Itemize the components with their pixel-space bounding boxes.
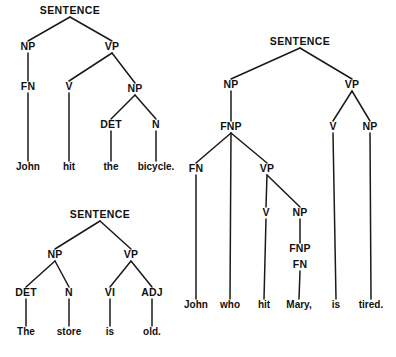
- tree-root-label: SENTENCE: [70, 208, 130, 220]
- tree-edge: [267, 175, 300, 207]
- tree-leaf-label: The: [17, 326, 35, 337]
- tree-node-label: NP: [293, 206, 308, 218]
- tree-edge: [231, 133, 267, 163]
- tree-leaf-label: is: [332, 299, 341, 310]
- tree-edge: [111, 95, 135, 119]
- tree-edge: [26, 261, 55, 287]
- tree-edge: [55, 221, 100, 249]
- tree-edge: [266, 175, 267, 207]
- tree-node-label: NP: [363, 120, 378, 132]
- tree-node-label: VP: [124, 248, 138, 260]
- tree-node-label: NP: [48, 248, 63, 260]
- tree-edge: [112, 53, 135, 83]
- tree-leaf-label: who: [219, 299, 240, 310]
- tree-leaf-label: is: [106, 326, 115, 337]
- tree-node-label: NP: [224, 78, 239, 90]
- tree-edge: [231, 48, 300, 79]
- tree-sentence-john-who-hit-mary-is-tired: SENTENCENPVPFNPVNPFNVPVNPFNPFNJohnwhohit…: [184, 35, 383, 310]
- tree-leaf-label: tired.: [359, 299, 384, 310]
- tree-node-label: FN: [189, 162, 203, 174]
- tree-root-label: SENTENCE: [40, 4, 100, 16]
- tree-node-label: FNP: [289, 242, 311, 254]
- tree-edge: [55, 261, 69, 287]
- tree-edge: [299, 271, 300, 299]
- tree-leaf-label: bicycle.: [138, 161, 175, 172]
- tree-nodes: SENTENCENPVPFNPVNPFNVPVNPFNPFN: [189, 35, 378, 270]
- tree-edges: [26, 221, 152, 326]
- tree-node-label: NP: [21, 40, 36, 52]
- tree-edge: [230, 133, 231, 299]
- syntax-tree-figure: SENTENCENPVPFNVNPDETNJohnhitthebicycle.S…: [0, 0, 396, 357]
- tree-sentence-john-hit-the-bicycle: SENTENCENPVPFNVNPDETNJohnhitthebicycle.: [16, 4, 175, 172]
- tree-edge: [333, 133, 336, 299]
- tree-edge: [370, 133, 371, 299]
- tree-leaves: Thestoreisold.: [17, 326, 161, 337]
- tree-canvas: SENTENCENPVPFNVNPDETNJohnhitthebicycle.S…: [0, 0, 396, 357]
- tree-nodes: SENTENCENPVPDETNVIADJ: [15, 208, 163, 298]
- tree-edge: [70, 17, 112, 41]
- tree-leaf-label: John: [16, 161, 40, 172]
- tree-node-label: NP: [128, 82, 143, 94]
- tree-edge: [196, 133, 231, 163]
- tree-edge: [69, 53, 112, 81]
- tree-node-label: ADJ: [141, 286, 163, 298]
- tree-leaf-label: Mary,: [286, 299, 312, 310]
- tree-edge: [131, 261, 152, 287]
- tree-leaf-label: store: [57, 326, 82, 337]
- tree-node-label: FN: [21, 80, 35, 92]
- tree-edge: [300, 48, 352, 79]
- tree-node-label: VI: [105, 286, 115, 298]
- tree-node-label: N: [65, 286, 73, 298]
- tree-leaf-label: old.: [143, 326, 161, 337]
- tree-root-label: SENTENCE: [270, 35, 330, 47]
- tree-leaves: Johnhitthebicycle.: [16, 161, 175, 172]
- tree-leaf-label: hit: [258, 299, 271, 310]
- tree-edge: [135, 95, 156, 119]
- tree-leaf-label: the: [104, 161, 119, 172]
- tree-node-label: DET: [100, 118, 122, 130]
- tree-node-label: V: [65, 80, 72, 92]
- tree-node-label: VP: [345, 78, 359, 90]
- tree-node-label: V: [262, 206, 269, 218]
- tree-edge: [352, 91, 370, 121]
- tree-edge: [100, 221, 131, 249]
- tree-node-label: FNP: [220, 120, 242, 132]
- tree-node-label: V: [329, 120, 336, 132]
- tree-edge: [110, 261, 131, 287]
- tree-leaf-label: John: [184, 299, 208, 310]
- tree-edge: [28, 17, 70, 41]
- tree-node-label: N: [152, 118, 160, 130]
- tree-leaves: JohnwhohitMary,istired.: [184, 299, 383, 310]
- tree-leaf-label: hit: [63, 161, 76, 172]
- tree-sentence-the-store-is-old: SENTENCENPVPDETNVIADJThestoreisold.: [15, 208, 163, 337]
- tree-node-label: VP: [260, 162, 274, 174]
- tree-edge: [333, 91, 352, 121]
- tree-edge: [264, 219, 266, 299]
- tree-node-label: VP: [105, 40, 119, 52]
- tree-node-label: DET: [15, 286, 37, 298]
- tree-node-label: FN: [293, 258, 307, 270]
